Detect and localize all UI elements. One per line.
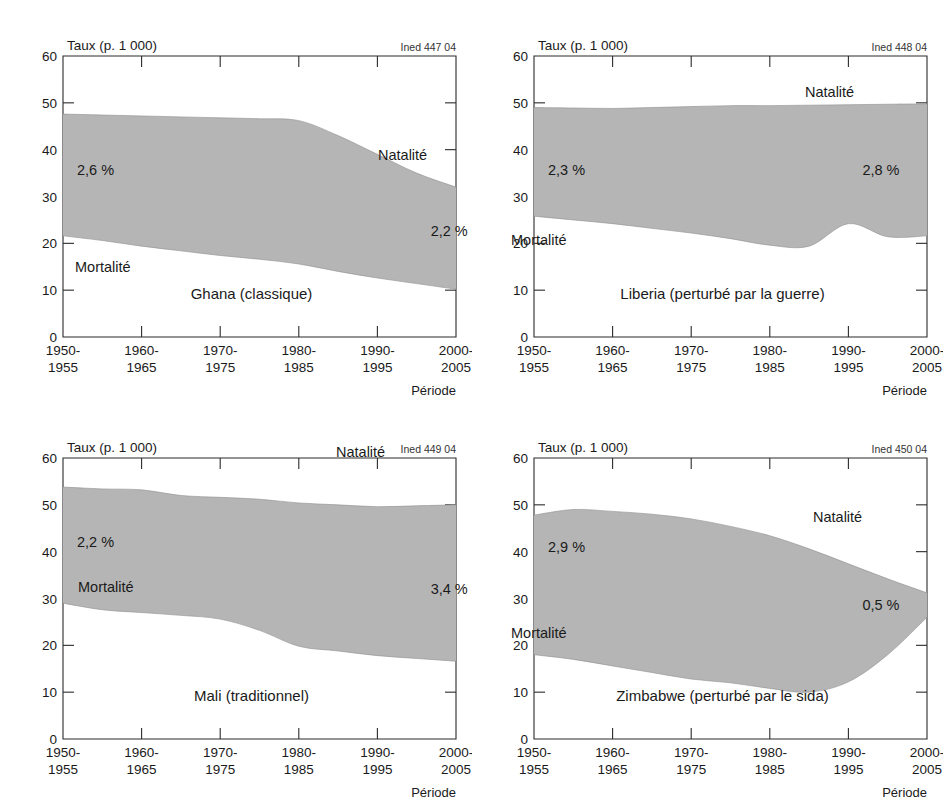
annotation-growth-rate: 2,6 % [77,162,114,178]
x-tick-label-end: 1965 [598,360,628,375]
x-tick-label-start: 1980- [282,343,317,358]
ined-code-label: Ined 449 04 [401,443,457,455]
y-tick-label: 20 [42,638,57,653]
series-label-mortalite: Mortalité [511,625,567,641]
y-tick-label: 40 [513,545,528,560]
x-tick-label-start: 1950- [517,745,552,760]
y-tick-label: 10 [513,685,528,700]
y-tick-label: 50 [513,96,528,111]
x-tick-label-end: 2005 [912,762,942,777]
x-tick-label-end: 1985 [284,762,314,777]
ined-code-label: Ined 447 04 [401,41,457,53]
x-tick-label-end: 1965 [127,360,157,375]
y-tick-label: 60 [42,49,57,64]
annotation-growth-rate: 0,5 % [862,597,899,613]
y-tick-label: 50 [513,498,528,513]
y-tick-label: 60 [513,451,528,466]
y-axis-unit-label: Taux (p. 1 000) [538,440,628,455]
x-tick-label-end: 1965 [127,762,157,777]
x-tick-label-start: 1970- [674,745,709,760]
x-axis-title: Période [882,383,927,398]
chart-title: Mali (traditionnel) [194,687,309,704]
annotation-growth-rate: 2,2 % [431,223,468,239]
chart-panel-2: Taux (p. 1 000)Ined 449 0401020304050601… [0,402,472,804]
chart-panel-0: Taux (p. 1 000)Ined 447 0401020304050601… [0,0,472,402]
y-tick-label: 20 [42,236,57,251]
x-tick-label-end: 1985 [755,360,785,375]
x-tick-label-start: 1970- [674,343,709,358]
x-tick-label-start: 1980- [282,745,317,760]
x-tick-label-start: 2000- [439,745,472,760]
x-axis-title: Période [411,383,456,398]
y-axis-unit-label: Taux (p. 1 000) [538,38,628,53]
chart-title: Liberia (perturbé par la guerre) [620,285,824,302]
x-tick-label-start: 1950- [46,343,81,358]
x-tick-label-start: 1990- [360,343,395,358]
x-axis-title: Période [882,785,927,800]
y-tick-label: 10 [513,283,528,298]
x-tick-label-end: 1955 [519,762,549,777]
x-tick-label-end: 1955 [48,360,78,375]
x-tick-label-start: 2000- [439,343,472,358]
x-tick-label-start: 1980- [753,343,788,358]
x-tick-label-end: 1975 [676,360,706,375]
x-tick-label-start: 1960- [124,343,159,358]
x-tick-label-start: 1970- [203,745,238,760]
y-tick-label: 50 [42,96,57,111]
y-tick-label: 40 [42,545,57,560]
x-axis-title: Période [411,785,456,800]
annotation-growth-rate: 2,3 % [548,162,585,178]
x-tick-label-start: 2000- [910,745,943,760]
ined-code-label: Ined 448 04 [872,41,928,53]
y-axis-unit-label: Taux (p. 1 000) [67,38,157,53]
series-label-natalite: Natalité [805,84,854,100]
y-tick-label: 10 [42,283,57,298]
x-tick-label-start: 1960- [595,745,630,760]
chart-panel-3: Taux (p. 1 000)Ined 450 0401020304050601… [471,402,943,804]
y-tick-label: 40 [513,143,528,158]
ined-code-label: Ined 450 04 [872,443,928,455]
y-tick-label: 30 [42,592,57,607]
x-tick-label-start: 1960- [595,343,630,358]
x-tick-label-start: 1990- [831,343,866,358]
annotation-growth-rate: 2,9 % [548,539,585,555]
x-tick-label-start: 1990- [831,745,866,760]
x-tick-label-start: 1990- [360,745,395,760]
x-tick-label-end: 1995 [833,762,863,777]
chart-title: Zimbabwe (perturbé par le sida) [616,687,829,704]
y-axis-unit-label: Taux (p. 1 000) [67,440,157,455]
x-tick-label-start: 1950- [46,745,81,760]
x-tick-label-end: 1995 [833,360,863,375]
x-tick-label-end: 1975 [205,360,235,375]
y-tick-label: 30 [513,190,528,205]
area-between-birth-and-death-rates [63,487,456,661]
series-label-mortalite: Mortalité [78,579,134,595]
y-tick-label: 60 [42,451,57,466]
chart-panel-1: Taux (p. 1 000)Ined 448 0401020304050601… [471,0,943,402]
y-tick-label: 60 [513,49,528,64]
y-tick-label: 40 [42,143,57,158]
x-tick-label-end: 2005 [441,360,471,375]
series-label-natalite: Natalité [336,444,385,460]
x-tick-label-start: 1980- [753,745,788,760]
y-tick-label: 30 [513,592,528,607]
y-tick-label: 10 [42,685,57,700]
x-tick-label-end: 1975 [676,762,706,777]
x-tick-label-end: 1995 [362,360,392,375]
series-label-natalite: Natalité [813,509,862,525]
figure-root: Taux (p. 1 000)Ined 447 0401020304050601… [0,0,943,804]
x-tick-label-end: 2005 [912,360,942,375]
x-tick-label-end: 1985 [284,360,314,375]
series-label-mortalite: Mortalité [511,232,567,248]
x-tick-label-end: 1955 [48,762,78,777]
y-tick-label: 50 [42,498,57,513]
annotation-growth-rate: 2,8 % [862,162,899,178]
x-tick-label-end: 1955 [519,360,549,375]
x-tick-label-end: 1975 [205,762,235,777]
x-tick-label-end: 1995 [362,762,392,777]
x-tick-label-start: 1970- [203,343,238,358]
series-label-mortalite: Mortalité [75,259,131,275]
annotation-growth-rate: 2,2 % [77,534,114,550]
x-tick-label-end: 1985 [755,762,785,777]
x-tick-label-start: 2000- [910,343,943,358]
